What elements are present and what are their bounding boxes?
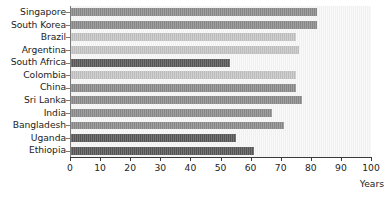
bar bbox=[71, 134, 236, 142]
bar bbox=[71, 122, 284, 130]
x-axis-tick bbox=[311, 157, 312, 161]
y-axis-tick bbox=[66, 63, 70, 64]
x-axis-tick-label: 0 bbox=[67, 162, 73, 173]
x-axis-tick-label: 90 bbox=[335, 162, 347, 173]
category-label: South Africa bbox=[11, 56, 66, 69]
table-row: Uganda bbox=[0, 132, 392, 145]
table-row: Colombia bbox=[0, 69, 392, 82]
x-axis: Years 0102030405060708090100 bbox=[0, 157, 392, 197]
table-row: Brazil bbox=[0, 31, 392, 44]
category-label: Singapore bbox=[20, 6, 66, 19]
category-label: Sri Lanka bbox=[24, 94, 66, 107]
bar bbox=[71, 96, 302, 104]
y-axis-tick bbox=[66, 12, 70, 13]
category-label: India bbox=[44, 107, 66, 120]
y-axis-tick bbox=[66, 100, 70, 101]
table-row: Sri Lanka bbox=[0, 94, 392, 107]
bar-chart: SingaporeSouth KoreaBrazilArgentinaSouth… bbox=[0, 0, 392, 197]
bar bbox=[71, 147, 254, 155]
y-axis-tick bbox=[66, 88, 70, 89]
x-axis-tick-label: 50 bbox=[215, 162, 227, 173]
category-label: Bangladesh bbox=[13, 119, 66, 132]
category-label: Brazil bbox=[41, 31, 66, 44]
x-axis-tick-label: 20 bbox=[124, 162, 136, 173]
x-axis-tick-label: 30 bbox=[154, 162, 166, 173]
table-row: Argentina bbox=[0, 44, 392, 57]
category-label: China bbox=[40, 81, 66, 94]
bar bbox=[71, 84, 296, 92]
y-axis-tick bbox=[66, 37, 70, 38]
y-axis-tick bbox=[66, 25, 70, 26]
bar bbox=[71, 71, 296, 79]
table-row: Bangladesh bbox=[0, 119, 392, 132]
table-row: South Korea bbox=[0, 19, 392, 32]
x-axis-tick-label: 10 bbox=[94, 162, 106, 173]
x-axis-tick-label: 80 bbox=[305, 162, 317, 173]
y-axis-tick bbox=[66, 50, 70, 51]
table-row: Singapore bbox=[0, 6, 392, 19]
table-row: China bbox=[0, 81, 392, 94]
x-axis-tick-label: 40 bbox=[185, 162, 197, 173]
x-axis-title: Years bbox=[360, 178, 384, 189]
bar bbox=[71, 46, 299, 54]
x-axis-tick bbox=[251, 157, 252, 161]
x-axis-tick bbox=[221, 157, 222, 161]
x-axis-tick bbox=[281, 157, 282, 161]
category-label: Ethiopia bbox=[29, 144, 66, 157]
table-row: India bbox=[0, 107, 392, 120]
x-axis-tick-label: 70 bbox=[275, 162, 287, 173]
x-axis-tick bbox=[190, 157, 191, 161]
x-axis-tick bbox=[130, 157, 131, 161]
x-axis-tick-label: 100 bbox=[362, 162, 380, 173]
y-axis-tick bbox=[66, 75, 70, 76]
x-axis-tick bbox=[371, 157, 372, 161]
category-label: Colombia bbox=[23, 69, 66, 82]
table-row: South Africa bbox=[0, 56, 392, 69]
bar bbox=[71, 33, 296, 41]
y-axis-tick bbox=[66, 151, 70, 152]
x-axis-tick bbox=[341, 157, 342, 161]
y-axis-tick bbox=[66, 125, 70, 126]
y-axis-tick bbox=[66, 113, 70, 114]
bar bbox=[71, 21, 317, 29]
table-row: Ethiopia bbox=[0, 144, 392, 157]
bar bbox=[71, 8, 317, 16]
x-axis-tick bbox=[70, 157, 71, 161]
bar bbox=[71, 59, 230, 67]
x-axis-tick-label: 60 bbox=[245, 162, 257, 173]
category-label: Argentina bbox=[22, 44, 66, 57]
category-label: South Korea bbox=[11, 19, 66, 32]
y-axis-tick bbox=[66, 138, 70, 139]
category-label: Uganda bbox=[31, 132, 66, 145]
x-axis-tick bbox=[160, 157, 161, 161]
x-axis-tick bbox=[100, 157, 101, 161]
bar bbox=[71, 109, 272, 117]
bar-rows: SingaporeSouth KoreaBrazilArgentinaSouth… bbox=[0, 6, 392, 157]
